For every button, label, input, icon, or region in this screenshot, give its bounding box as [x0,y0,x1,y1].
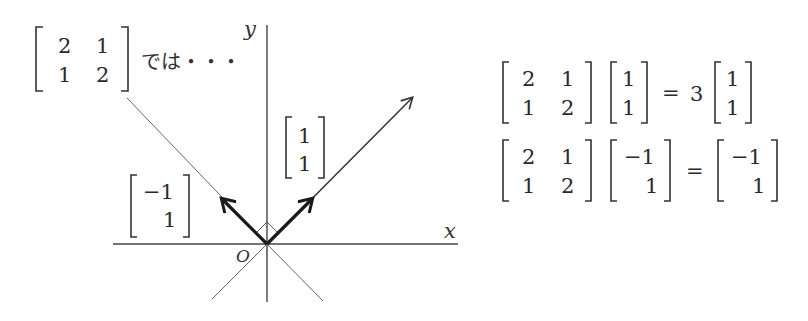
matrix-entry: 2 [58,34,71,58]
equation-2: 2 1 1 2 −1 1 = −1 1 [503,140,777,201]
equation-1: 2 1 1 2 1 1 = 3 1 1 [503,62,751,123]
left-bracket [36,27,43,91]
svg-text:1: 1 [645,174,658,198]
matrix-entry: 2 [96,63,109,87]
svg-text:−1: −1 [624,145,655,169]
svg-text:1: 1 [298,124,311,148]
svg-text:1: 1 [561,145,574,169]
svg-text:1: 1 [622,67,635,91]
y-axis-label: y [243,17,257,41]
svg-text:=: = [662,81,680,105]
right-bracket [121,27,128,91]
matrix-entry: 1 [58,63,71,87]
svg-text:2: 2 [561,174,574,198]
svg-text:−1: −1 [731,145,762,169]
vector-label-1-1: 1 1 [286,117,324,178]
svg-text:2: 2 [561,96,574,120]
matrix-entry: 1 [96,34,109,58]
title-caption: では・・・ [141,50,241,74]
svg-text:1: 1 [522,96,535,120]
svg-text:2: 2 [522,67,535,91]
svg-text:1: 1 [561,67,574,91]
svg-text:1: 1 [752,174,765,198]
svg-text:1: 1 [163,208,176,232]
x-axis-label: x [444,219,456,243]
svg-text:1: 1 [726,96,739,120]
vector-arrow-neg1-1 [222,199,267,244]
svg-text:−1: −1 [143,180,174,204]
svg-text:1: 1 [522,174,535,198]
svg-text:1: 1 [622,96,635,120]
svg-text:1: 1 [298,152,311,176]
svg-text:3: 3 [690,82,703,106]
vector-arrow-1-1 [267,199,312,244]
vector-label-neg1-1: −1 1 [131,175,189,237]
svg-text:1: 1 [726,67,739,91]
title-matrix: 2 1 1 2 [36,27,128,91]
svg-text:=: = [686,159,704,183]
eigenvector-diagram: 2 1 1 2 では・・・ y x O 1 1 −1 1 2 1 1 2 [0,0,808,321]
eigenline-antidiag-lower [267,244,323,301]
svg-text:2: 2 [522,145,535,169]
